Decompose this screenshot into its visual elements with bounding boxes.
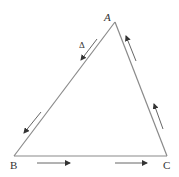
arrows-ab xyxy=(24,39,97,133)
triangle-diagram: A B C Δ xyxy=(0,0,179,177)
arrow-icon xyxy=(24,112,41,133)
triangle xyxy=(14,22,167,156)
vertex-label-c: C xyxy=(163,159,170,171)
delta-label: Δ xyxy=(79,40,85,50)
vertex-label-b: B xyxy=(10,159,17,171)
vertex-label-a: A xyxy=(103,11,111,23)
arrows-ca xyxy=(126,36,163,129)
edge-ca xyxy=(115,22,167,156)
edge-ab xyxy=(14,22,115,156)
arrow-icon xyxy=(126,36,136,61)
